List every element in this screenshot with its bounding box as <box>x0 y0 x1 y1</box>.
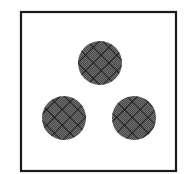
diagram-canvas <box>0 0 184 174</box>
circle-top <box>78 41 122 85</box>
circle-crosshatch <box>112 96 156 140</box>
circle-crosshatch <box>42 96 86 140</box>
circle-bottom-left <box>42 96 86 140</box>
frame-border <box>21 12 176 171</box>
circle-crosshatch <box>78 41 122 85</box>
circle-group <box>42 41 156 140</box>
circle-bottom-right <box>112 96 156 140</box>
